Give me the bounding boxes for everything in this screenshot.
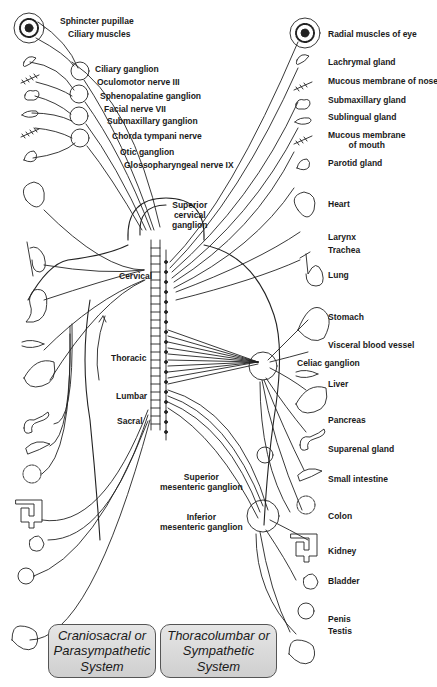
label-radial-muscles: Radial muscles of eye bbox=[328, 29, 417, 39]
legend-sympathetic-line3: System bbox=[161, 659, 276, 675]
superior-mesenteric-ganglion-icon bbox=[257, 447, 273, 463]
right-organs-icon bbox=[289, 192, 329, 664]
right-eye-icon bbox=[290, 18, 320, 48]
label-superior-cervical-line1: Superior bbox=[172, 200, 207, 210]
label-mucous-mouth-line2: of mouth bbox=[349, 140, 385, 150]
label-submaxillary-ganglion: Submaxillary ganglion bbox=[107, 116, 198, 126]
label-sublingual-gland: Sublingual gland bbox=[328, 112, 396, 122]
cranial-ganglia-icon bbox=[70, 62, 89, 147]
label-celiac-ganglion: Celiac ganglion bbox=[297, 358, 360, 368]
label-lung: Lung bbox=[328, 270, 349, 280]
legend-parasympathetic-line2: Parasympathetic bbox=[49, 643, 155, 659]
label-inferior-mesenteric-line2: mesenteric ganglion bbox=[160, 522, 243, 532]
label-ciliary-muscles: Ciliary muscles bbox=[68, 29, 130, 39]
label-lumbar: Lumbar bbox=[116, 391, 147, 401]
label-mucous-nose: Mucous membrane of nose bbox=[328, 76, 437, 86]
label-otic-ganglion: Otic ganglion bbox=[120, 147, 174, 157]
legend-parasympathetic-line3: System bbox=[49, 659, 155, 675]
label-superior-mesenteric-line2: mesenteric ganglion bbox=[160, 482, 243, 492]
label-inferior-mesenteric-line1: Inferior bbox=[187, 512, 216, 522]
label-oculomotor-nerve: Oculomotor nerve III bbox=[97, 77, 180, 87]
left-head-glands-icon bbox=[21, 57, 39, 162]
ans-diagram: Sphincter pupillae Ciliary muscles Cilia… bbox=[0, 0, 437, 687]
legend-parasympathetic: Craniosacral or Parasympathetic System bbox=[48, 624, 156, 678]
legend-parasympathetic-line1: Craniosacral or bbox=[49, 628, 155, 644]
label-stomach: Stomach bbox=[328, 312, 364, 322]
label-sacral: Sacral bbox=[117, 416, 143, 426]
label-glossopharyngeal-nerve: Glossopharyngeal nerve IX bbox=[124, 160, 234, 170]
left-eye-icon bbox=[14, 13, 44, 43]
splanchnic-nerves-icon bbox=[168, 330, 258, 384]
label-penis: Penis bbox=[328, 614, 351, 624]
label-kidney: Kidney bbox=[328, 546, 356, 556]
label-parotid-gland: Parotid gland bbox=[328, 158, 382, 168]
label-small-intestine: Small intestine bbox=[328, 474, 388, 484]
label-superior-cervical-line3: ganglion bbox=[172, 220, 207, 230]
legend-sympathetic-line2: Sympathetic bbox=[161, 643, 276, 659]
label-visceral-blood-vessel: Visceral blood vessel bbox=[328, 340, 414, 350]
label-suprarenal-gland: Suparenal gland bbox=[328, 444, 394, 454]
label-inferior-mesenteric-ganglion: Inferior mesenteric ganglion bbox=[160, 512, 243, 532]
label-sphenopalatine-ganglion: Sphenopalatine ganglion bbox=[100, 91, 201, 101]
celiac-ganglion-icon bbox=[249, 352, 277, 380]
label-lachrymal-gland: Lachrymal gland bbox=[328, 57, 396, 67]
label-pancreas: Pancreas bbox=[328, 415, 366, 425]
label-cervical: Cervical bbox=[119, 271, 152, 281]
label-trachea: Trachea bbox=[328, 245, 360, 255]
label-sphincter-pupillae: Sphincter pupillae bbox=[60, 16, 134, 26]
label-liver: Liver bbox=[328, 379, 348, 389]
label-facial-nerve: Facial nerve VII bbox=[104, 104, 166, 114]
label-ciliary-ganglion: Ciliary ganglion bbox=[95, 64, 159, 74]
label-superior-cervical-ganglion: Superior cervical ganglion bbox=[172, 200, 207, 230]
label-superior-mesenteric-ganglion: Superior mesenteric ganglion bbox=[160, 472, 243, 492]
legend-sympathetic-line1: Thoracolumbar or bbox=[161, 628, 276, 644]
label-chorda-tympani: Chorda tympani nerve bbox=[112, 131, 202, 141]
label-superior-cervical-line2: cervical bbox=[174, 210, 206, 220]
label-superior-mesenteric-line1: Superior bbox=[184, 472, 219, 482]
spinal-column-icon bbox=[151, 240, 160, 430]
label-heart: Heart bbox=[328, 199, 350, 209]
label-mucous-mouth-line1: Mucous membrane bbox=[328, 130, 405, 140]
label-colon: Colon bbox=[328, 511, 352, 521]
label-thoracic: Thoracic bbox=[111, 353, 146, 363]
label-submaxillary-gland: Submaxillary gland bbox=[328, 95, 406, 105]
legend-sympathetic: Thoracolumbar or Sympathetic System bbox=[160, 624, 277, 678]
label-larynx: Larynx bbox=[328, 232, 356, 242]
left-organs-icon bbox=[12, 182, 55, 650]
label-testis: Testis bbox=[328, 626, 352, 636]
label-mucous-mouth: Mucous membraneof mouth bbox=[328, 130, 405, 150]
label-bladder: Bladder bbox=[328, 576, 360, 586]
sympathetic-chain-icon bbox=[165, 250, 168, 440]
